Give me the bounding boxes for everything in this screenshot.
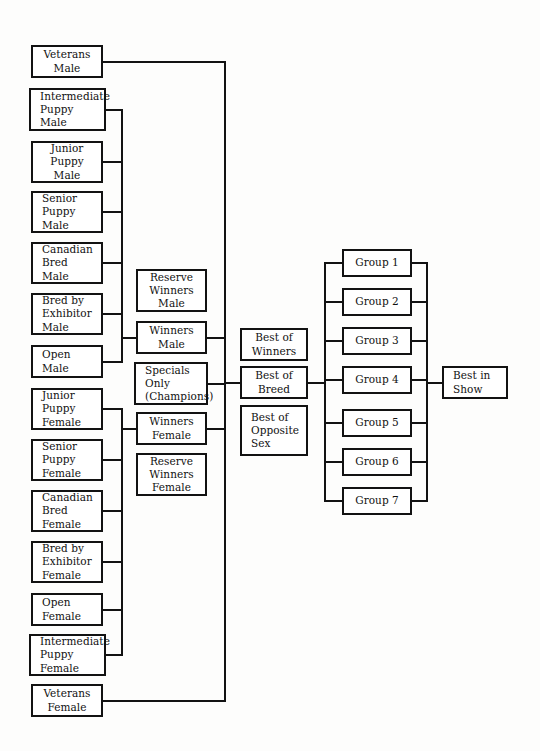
flowchart-canvas: VeteransMaleIntermediatePuppyMaleJuniorP… [0, 0, 540, 751]
node-bred-exh-male: Bred byExhibitorMale [31, 293, 103, 335]
node-win-fem: WinnersFemale [136, 412, 207, 445]
node-label-line: Veterans [43, 687, 90, 700]
node-group-6: Group 6 [342, 448, 412, 476]
node-label-line: Female [42, 518, 101, 531]
node-label-line: Puppy [42, 205, 101, 218]
node-label-line: Female [42, 467, 101, 480]
node-label-line: Group 6 [355, 455, 399, 468]
node-label-line: Senior [42, 192, 101, 205]
node-res-win-male: ReserveWinnersMale [136, 269, 207, 312]
node-label-line: Puppy [50, 155, 83, 168]
node-label-line: Winners [149, 415, 193, 428]
node-label-line: Female [42, 416, 101, 429]
connector-stub-open-fem [103, 609, 123, 611]
node-label-line: Female [152, 429, 191, 442]
node-label-line: (Champions) [145, 390, 206, 403]
node-can-bred-male: CanadianBredMale [31, 242, 103, 284]
node-label-line: Group 1 [355, 256, 399, 269]
connector-bus-groups-left [324, 262, 326, 502]
node-group-5: Group 5 [342, 409, 412, 437]
node-label-line: Canadian [42, 243, 101, 256]
node-vet-male: VeteransMale [31, 45, 103, 78]
connector-bus-to-group-3 [324, 340, 344, 342]
node-label-line: Best of [251, 411, 306, 424]
node-group-1: Group 1 [342, 249, 412, 277]
node-label-line: Bred by [42, 542, 101, 555]
connector-bus-to-group-6 [324, 461, 344, 463]
node-win-male: WinnersMale [136, 321, 207, 354]
node-can-bred-fem: CanadianBredFemale [31, 490, 103, 532]
connector-stub-bred-exh-male [103, 313, 123, 315]
node-label-line: Winners [149, 468, 193, 481]
node-label-line: Bred [42, 504, 101, 517]
node-open-fem: OpenFemale [31, 593, 103, 626]
connector-stub-jr-puppy-fem [103, 408, 123, 410]
node-label-line: Breed [258, 383, 290, 396]
node-label-line: Reserve [150, 271, 193, 284]
node-label-line: Male [40, 116, 104, 129]
node-best-in-show: Best inShow [442, 366, 508, 399]
node-sr-puppy-male: SeniorPuppyMale [31, 191, 103, 233]
node-label-line: Female [42, 569, 101, 582]
connector-stub-bred-exh-fem [103, 561, 123, 563]
connector-bus-to-group-7 [324, 500, 344, 502]
node-int-puppy-male: IntermediatePuppyMale [29, 88, 106, 131]
node-label-line: Canadian [42, 491, 101, 504]
node-jr-puppy-fem: JuniorPuppyFemale [31, 388, 103, 430]
node-label-line: Male [158, 338, 185, 351]
node-jr-puppy-male: JuniorPuppyMale [31, 141, 103, 183]
node-label-line: Male [54, 62, 81, 75]
node-group-7: Group 7 [342, 487, 412, 515]
node-label-line: Opposite [251, 424, 306, 437]
node-label-line: Senior [42, 440, 101, 453]
node-res-win-fem: ReserveWinnersFemale [136, 453, 207, 496]
node-label-line: Junior [42, 389, 101, 402]
node-label-line: Winners [252, 345, 296, 358]
node-vet-fem: VeteransFemale [31, 684, 103, 717]
node-label-line: Group 3 [355, 334, 399, 347]
node-label-line: Only [145, 377, 206, 390]
node-best-opp-sex: Best ofOppositeSex [240, 405, 308, 456]
connector-stub-jr-puppy-male [103, 161, 123, 163]
node-label-line: Female [152, 481, 191, 494]
node-label-line: Puppy [40, 648, 104, 661]
node-label-line: Male [42, 321, 101, 334]
node-best-of-winners: Best ofWinners [240, 328, 308, 361]
connector-bus-male-classes [121, 109, 123, 363]
connector-veterans-female-out [103, 700, 226, 702]
connector-stub-can-bred-fem [103, 510, 123, 512]
node-label-line: Puppy [42, 402, 101, 415]
node-label-line: Male [42, 362, 101, 375]
node-label-line: Puppy [42, 453, 101, 466]
node-label-line: Veterans [43, 48, 90, 61]
node-label-line: Bred by [42, 294, 101, 307]
node-label-line: Best of [255, 369, 292, 382]
connector-stub-can-bred-male [103, 262, 123, 264]
node-label-line: Reserve [150, 455, 193, 468]
node-best-of-breed: Best ofBreed [240, 366, 308, 399]
node-label-line: Female [40, 662, 104, 675]
node-label-line: Open [42, 348, 101, 361]
node-label-line: Male [42, 219, 101, 232]
node-label-line: Sex [251, 437, 306, 450]
node-label-line: Open [42, 596, 101, 609]
node-group-4: Group 4 [342, 366, 412, 394]
node-group-3: Group 3 [342, 327, 412, 355]
connector-stub-sr-puppy-male [103, 211, 123, 213]
node-label-line: Male [54, 169, 81, 182]
connector-bus-female-classes [121, 408, 123, 656]
node-group-2: Group 2 [342, 288, 412, 316]
node-label-line: Male [158, 297, 185, 310]
node-label-line: Exhibitor [42, 307, 101, 320]
node-int-puppy-fem: IntermediatePuppyFemale [29, 634, 106, 676]
node-label-line: Intermediate [40, 90, 104, 103]
node-label-line: Junior [51, 142, 84, 155]
node-label-line: Intermediate [40, 635, 104, 648]
node-label-line: Group 5 [355, 416, 399, 429]
node-label-line: Best in [453, 369, 506, 382]
connector-bus-to-group-2 [324, 301, 344, 303]
node-label-line: Group 4 [355, 373, 399, 386]
node-bred-exh-fem: Bred byExhibitorFemale [31, 541, 103, 583]
node-label-line: Female [42, 610, 101, 623]
node-label-line: Specials [145, 364, 206, 377]
